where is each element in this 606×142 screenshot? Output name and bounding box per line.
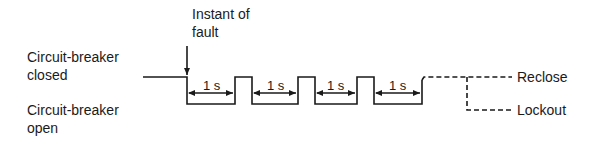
timing-waveform	[0, 0, 606, 142]
interval-label-2: 1 s	[267, 77, 284, 95]
interval-label-3: 1 s	[327, 77, 344, 95]
interval-label-1: 1 s	[203, 77, 220, 95]
lockout-dashed-trace	[467, 77, 512, 110]
interval-label-4: 1 s	[389, 77, 406, 95]
